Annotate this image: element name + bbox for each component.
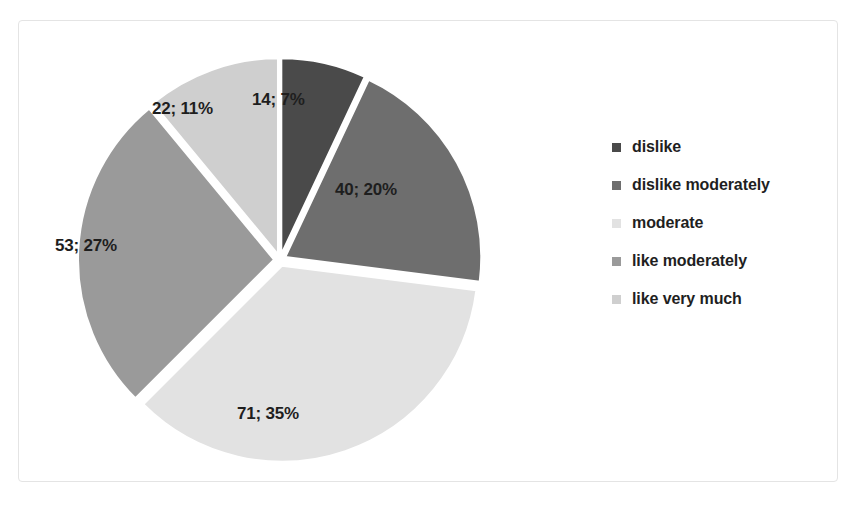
pie-chart-plot-area: 14; 7% 40; 20% 71; 35% 53; 27% 22; 11% d… — [0, 0, 857, 506]
legend-item[interactable]: moderate — [612, 204, 837, 242]
legend-item-label: like very much — [632, 290, 742, 308]
slice-data-label-dislike: 14; 7% — [252, 90, 305, 110]
legend-item-label: dislike moderately — [632, 176, 770, 194]
legend-item-label: like moderately — [632, 252, 747, 270]
legend-item[interactable]: like very much — [612, 280, 837, 318]
legend-item[interactable]: like moderately — [612, 242, 837, 280]
legend-item[interactable]: dislike moderately — [612, 166, 837, 204]
legend-item[interactable]: dislike — [612, 128, 837, 166]
slice-data-label-moderate: 71; 35% — [237, 404, 299, 424]
legend-swatch-icon — [612, 181, 621, 190]
legend-swatch-icon — [612, 219, 621, 228]
chart-legend: dislike dislike moderately moderate like… — [612, 128, 837, 318]
slice-data-label-dislike-moderately: 40; 20% — [335, 180, 397, 200]
legend-swatch-icon — [612, 143, 621, 152]
legend-swatch-icon — [612, 257, 621, 266]
slice-data-label-like-moderately: 53; 27% — [55, 236, 117, 256]
pie-slice-group — [78, 58, 481, 462]
slice-data-label-like-very-much: 22; 11% — [152, 99, 213, 119]
legend-item-label: dislike — [632, 138, 681, 156]
legend-swatch-icon — [612, 295, 621, 304]
legend-item-label: moderate — [632, 214, 703, 232]
